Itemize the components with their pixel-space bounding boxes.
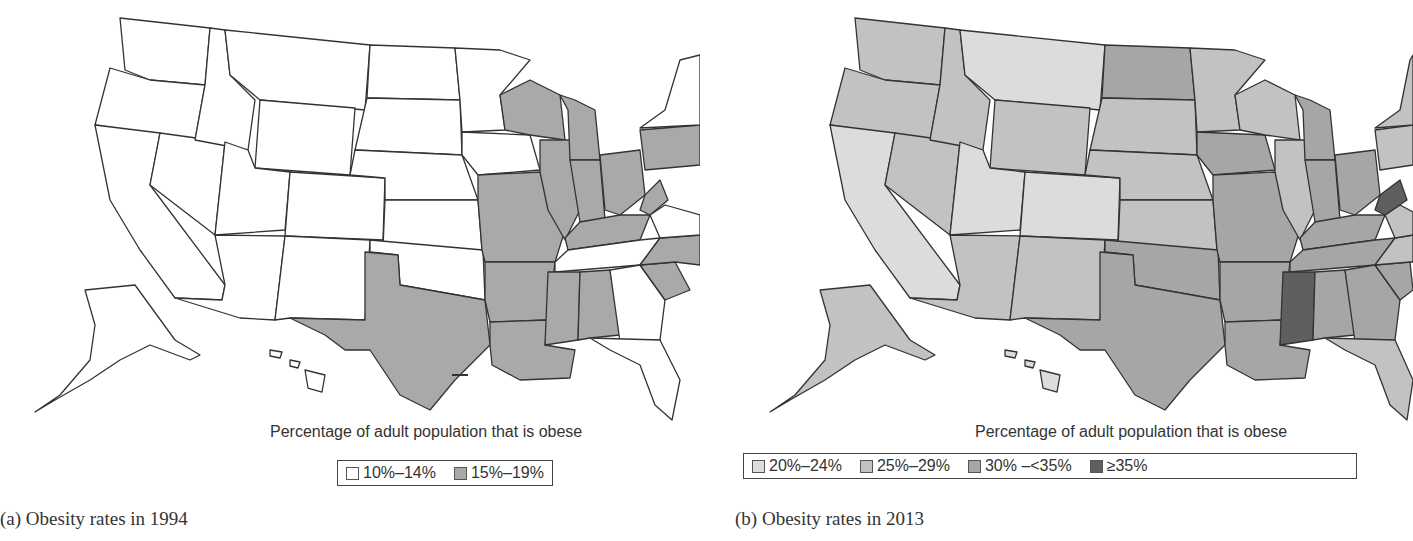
caption-2013: (b) Obesity rates in 2013 (735, 508, 924, 530)
state-hi (1040, 370, 1060, 392)
state-wi (500, 80, 565, 140)
legend-swatch-light (860, 460, 873, 473)
state-ny (1375, 55, 1413, 128)
map-panel-2013: Percentage of adult population that is o… (735, 0, 1413, 541)
legend-label: ≥35% (1107, 457, 1148, 475)
state-wy (990, 100, 1090, 175)
legend-2013: 20%–24% 25%–29% 30% –<35% ≥35% (743, 453, 1357, 479)
state-ms (545, 272, 580, 345)
state-oh (1335, 150, 1380, 215)
legend-label: 15%–19% (471, 464, 544, 482)
caption-1994: (a) Obesity rates in 1994 (0, 508, 188, 530)
legend-swatch-white (346, 467, 359, 480)
state-nm (275, 236, 370, 320)
state-pa (1375, 125, 1413, 170)
legend-label: 30% –<35% (985, 457, 1072, 475)
state-ms (1280, 272, 1315, 345)
state-nd (367, 45, 460, 100)
legend-swatch-lightest (752, 460, 765, 473)
map-panel-1994: Percentage of adult population that is o… (0, 0, 700, 541)
state-ak (35, 285, 200, 412)
state-sd (1090, 98, 1197, 155)
state-pa (640, 125, 700, 170)
legend-item-10-14: 10%–14% (346, 464, 436, 482)
legend-label: 25%–29% (877, 457, 950, 475)
legend-item-20-24: 20%–24% (752, 457, 842, 475)
state-wi (1235, 80, 1300, 140)
state-nm (1010, 236, 1105, 320)
state-hi (305, 370, 325, 392)
state-oh (600, 150, 645, 215)
state-wy (255, 100, 355, 175)
state-nd (1102, 45, 1195, 100)
state-sd (355, 98, 462, 155)
legend-swatch-dark (1090, 460, 1103, 473)
legend-item-25-29: 25%–29% (860, 457, 950, 475)
state-hi-small (1005, 350, 1035, 368)
legend-1994: 10%–14% 15%–19% (337, 460, 553, 486)
legend-title-2013: Percentage of adult population that is o… (975, 423, 1287, 441)
legend-item-15-19: 15%–19% (454, 464, 544, 482)
state-fl (590, 338, 680, 420)
state-ar (485, 262, 555, 322)
state-va (650, 205, 700, 238)
legend-title-1994: Percentage of adult population that is o… (270, 423, 582, 441)
state-ia (462, 132, 540, 175)
legend-label: 20%–24% (769, 457, 842, 475)
state-co (1020, 172, 1120, 240)
legend-label: 10%–14% (363, 464, 436, 482)
state-ny (640, 55, 700, 128)
state-hi-small (270, 350, 300, 368)
state-ak (770, 285, 935, 412)
us-map-1994 (0, 0, 700, 440)
legend-item-30-35: 30% –<35% (968, 457, 1072, 475)
state-ar (1220, 262, 1290, 322)
state-fl (1325, 338, 1413, 420)
us-map-2013 (735, 0, 1413, 440)
legend-swatch-gray (454, 467, 467, 480)
legend-item-35-plus: ≥35% (1090, 457, 1148, 475)
legend-swatch-medium (968, 460, 981, 473)
state-co (285, 172, 385, 240)
state-ia (1197, 132, 1275, 175)
